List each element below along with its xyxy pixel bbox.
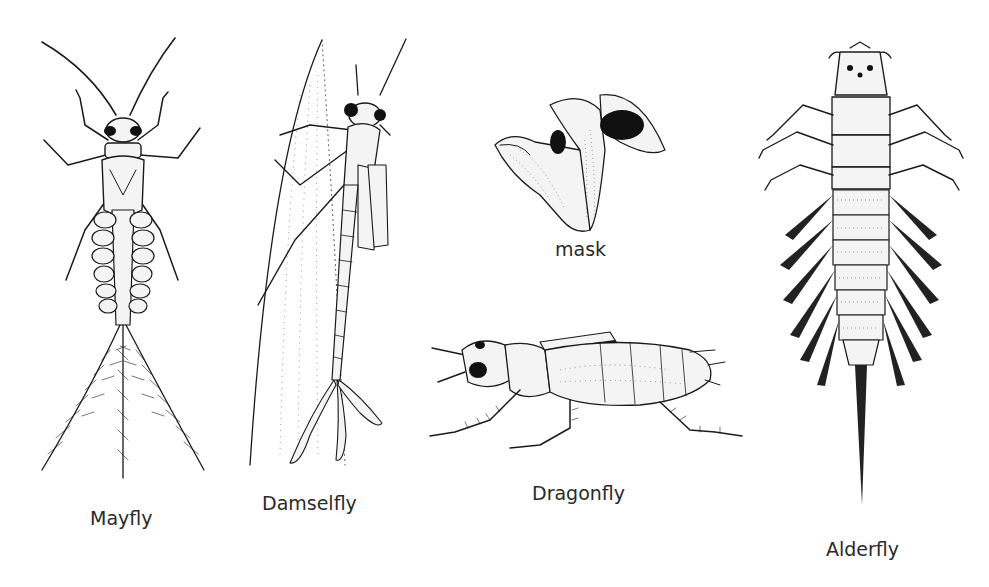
label-damselfly: Damselfly xyxy=(262,492,357,514)
label-alderfly: Alderfly xyxy=(826,538,899,560)
label-mask: mask xyxy=(555,238,606,260)
alderfly-illustration xyxy=(755,40,965,510)
mayfly-drawing xyxy=(30,30,210,480)
mask-illustration xyxy=(490,70,680,240)
mayfly-illustration xyxy=(30,30,210,480)
damselfly-drawing xyxy=(240,35,420,475)
label-mayfly: Mayfly xyxy=(90,507,153,529)
dragonfly-illustration xyxy=(420,320,750,460)
label-dragonfly: Dragonfly xyxy=(532,482,625,504)
dragonfly-drawing xyxy=(420,320,750,460)
damselfly-illustration xyxy=(240,35,420,475)
alderfly-drawing xyxy=(755,40,965,510)
mask-drawing xyxy=(490,70,680,240)
